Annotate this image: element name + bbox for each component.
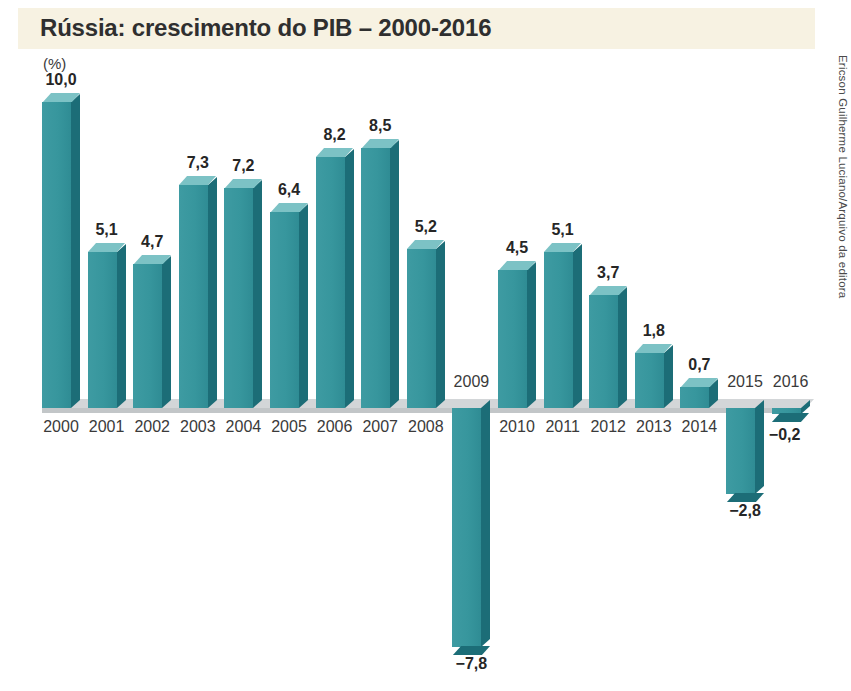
year-label-2014: 2014	[669, 418, 729, 436]
bar-2002	[133, 264, 162, 408]
value-label-2005: 6,4	[258, 181, 320, 199]
bar-side-face	[71, 94, 80, 408]
bar-front-face	[680, 387, 709, 408]
value-label-2011: 5,1	[532, 221, 594, 239]
bar-front-face	[726, 408, 755, 494]
bar-side-face	[390, 140, 399, 408]
bar-2001	[88, 252, 117, 408]
value-label-2000: 10,0	[30, 71, 92, 89]
bar-2008	[407, 249, 436, 408]
bar-2004	[224, 188, 253, 408]
bar-front-face	[270, 212, 299, 408]
bar-2005	[270, 212, 299, 408]
bar-2016	[772, 408, 801, 414]
bar-front-face	[361, 148, 390, 408]
bar-bottom-face	[772, 413, 809, 422]
bar-front-face	[544, 252, 573, 408]
page-title: Rússia: crescimento do PIB – 2000-2016	[40, 14, 491, 42]
bar-side-face	[527, 262, 536, 408]
image-credit: Ericson Guilherme Luciano/Arquivo da edi…	[829, 55, 849, 298]
chart-plot-area: (%) 10,020005,120014,720027,320037,22004…	[0, 50, 815, 691]
bar-front-face	[589, 295, 618, 408]
bar-side-face	[208, 177, 217, 408]
bar-2013	[635, 353, 664, 408]
bar-front-face	[133, 264, 162, 408]
bar-side-face	[481, 400, 490, 647]
bar-side-face	[345, 149, 354, 408]
year-label-2016: 2016	[761, 373, 821, 391]
y-axis-unit-label: (%)	[43, 55, 66, 72]
bar-side-face	[253, 180, 262, 408]
bar-front-face	[407, 249, 436, 408]
bar-2014	[680, 387, 709, 408]
bar-bottom-face	[726, 493, 763, 502]
bar-front-face	[88, 252, 117, 408]
bar-2007	[361, 148, 390, 408]
bar-side-face	[618, 287, 627, 408]
value-label-2016: −0,2	[754, 426, 816, 444]
value-label-2014: 0,7	[668, 356, 730, 374]
year-label-2009: 2009	[441, 373, 501, 391]
value-label-2013: 1,8	[623, 322, 685, 340]
bar-front-face	[179, 185, 208, 408]
bar-side-face	[755, 400, 764, 494]
bar-2000	[42, 102, 71, 408]
bar-2015	[726, 408, 755, 494]
bar-2009	[452, 408, 481, 647]
bar-2012	[589, 295, 618, 408]
year-label-2008: 2008	[396, 418, 456, 436]
value-label-2007: 8,5	[349, 117, 411, 135]
value-label-2004: 7,2	[212, 157, 274, 175]
value-label-2009: −7,8	[440, 655, 502, 673]
baseline-front-face	[42, 408, 801, 413]
bar-side-face	[664, 345, 673, 408]
bar-front-face	[635, 353, 664, 408]
value-label-2002: 4,7	[121, 233, 183, 251]
value-label-2015: −2,8	[714, 502, 776, 520]
value-label-2010: 4,5	[486, 239, 548, 257]
bar-2003	[179, 185, 208, 408]
bar-side-face	[162, 256, 171, 408]
bar-side-face	[299, 204, 308, 408]
value-label-2008: 5,2	[395, 218, 457, 236]
bar-2011	[544, 252, 573, 408]
bar-side-face	[117, 244, 126, 408]
bar-front-face	[498, 270, 527, 408]
value-label-2012: 3,7	[577, 264, 639, 282]
bar-front-face	[224, 188, 253, 408]
bar-front-face	[42, 102, 71, 408]
bar-2010	[498, 270, 527, 408]
bar-bottom-face	[453, 646, 490, 655]
bar-front-face	[452, 408, 481, 647]
